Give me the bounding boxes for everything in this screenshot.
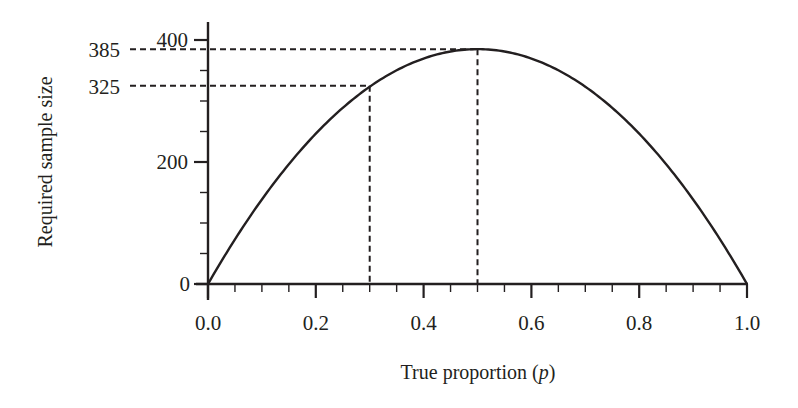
axis-ticks — [194, 40, 747, 298]
x-tick-label: 0.2 — [303, 311, 329, 335]
annotation-label: 385 — [89, 38, 121, 62]
x-tick-label: 0.6 — [518, 311, 544, 335]
x-tick-label: 0.4 — [410, 311, 437, 335]
sample-size-chart: 0.00.20.40.60.81.00200400385325 Required… — [0, 0, 798, 408]
y-tick-label: 400 — [157, 28, 189, 52]
x-tick-label: 0.0 — [195, 311, 221, 335]
x-tick-label: 0.8 — [626, 311, 652, 335]
y-tick-label: 0 — [180, 272, 191, 296]
x-tick-label: 1.0 — [734, 311, 760, 335]
x-axis-title: True proportion (p) — [401, 361, 556, 384]
y-tick-label: 200 — [157, 150, 189, 174]
annotation-label: 325 — [89, 75, 121, 99]
y-axis-title: Required sample size — [34, 76, 57, 247]
